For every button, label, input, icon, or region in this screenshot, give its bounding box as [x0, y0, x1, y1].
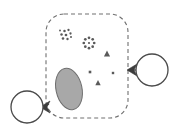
rosette-dot-2 [93, 42, 96, 45]
cluster-dot-7 [70, 36, 72, 38]
rosette-center-dot [88, 42, 90, 44]
rosette-dot-3 [91, 45, 94, 48]
diagram-canvas [0, 0, 171, 139]
rosette-dot-7 [84, 38, 87, 41]
rosette-dot-0 [88, 36, 91, 39]
cluster-dot-1 [67, 29, 69, 31]
cluster-dot-3 [65, 34, 68, 37]
cluster-dot-4 [69, 32, 71, 34]
node-circle-left[interactable] [11, 91, 43, 123]
dot-rosette [82, 36, 95, 49]
diagram-svg [0, 0, 171, 139]
cluster-dot-2 [60, 33, 63, 36]
rosette-dot-1 [91, 38, 94, 41]
cluster-dot-8 [59, 30, 61, 32]
square-marker-left [89, 71, 92, 74]
rosette-dot-5 [84, 45, 87, 48]
cluster-dot-6 [66, 38, 68, 40]
cluster-dot-5 [62, 37, 65, 40]
rosette-dot-4 [88, 47, 91, 50]
cluster-dot-0 [63, 30, 66, 33]
node-circle-right[interactable] [136, 54, 168, 86]
rosette-dot-6 [82, 42, 85, 45]
square-marker-right [112, 72, 114, 74]
